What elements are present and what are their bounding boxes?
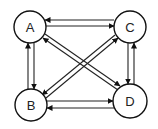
node-d: D [113,84,147,118]
node-b: B [15,89,47,121]
node-b-label: B [27,98,36,113]
edge-c-to-b [42,35,115,95]
node-a: A [14,11,46,43]
node-a-label: A [26,20,35,35]
edge-a-to-d [45,34,120,86]
node-c-label: C [125,20,134,35]
node-d-label: D [125,94,134,109]
graph-diagram: A C B D [0,0,158,129]
node-c: C [114,11,146,43]
